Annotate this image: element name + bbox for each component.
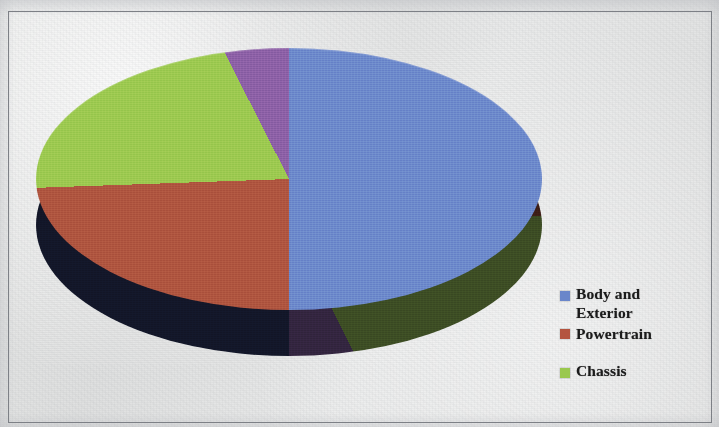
legend-label-powertrain: Powertrain [576, 324, 652, 343]
legend-swatch-green-icon [560, 368, 570, 378]
chart-legend: Body and Exterior Powertrain Chassis [560, 284, 708, 382]
legend-label-body-and-exterior: Body and Exterior [576, 284, 640, 322]
legend-item-body-and-exterior[interactable]: Body and Exterior [560, 284, 708, 322]
legend-swatch-blue-icon [560, 291, 570, 301]
legend-swatch-red-icon [560, 329, 570, 339]
legend-label-chassis: Chassis [576, 361, 627, 380]
pie-chart [36, 48, 542, 364]
legend-item-powertrain[interactable]: Powertrain [560, 324, 708, 343]
pie-top-face [36, 48, 542, 310]
legend-item-chassis[interactable]: Chassis [560, 361, 708, 380]
